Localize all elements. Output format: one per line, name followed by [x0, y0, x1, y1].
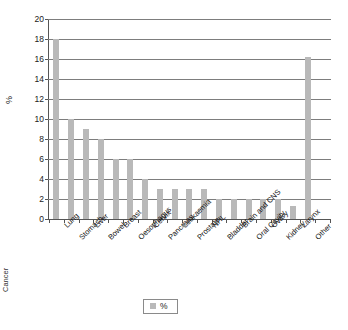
- bar-slot: [241, 19, 256, 219]
- y-tick-mark: [45, 159, 48, 160]
- bar-slot: [138, 19, 153, 219]
- y-tick-label: 16: [35, 55, 44, 64]
- y-tick-label: 10: [35, 115, 44, 124]
- chart-legend: %: [143, 299, 178, 314]
- y-tick-mark: [45, 139, 48, 140]
- bar-slot: [123, 19, 138, 219]
- bar: [53, 39, 59, 219]
- y-axis-title: %: [4, 96, 14, 104]
- bar-slot: [256, 19, 271, 219]
- x-tick-label: Other: [314, 223, 333, 242]
- x-tick-mark: [286, 219, 287, 223]
- y-tick-mark: [45, 79, 48, 80]
- y-tick-label: 14: [35, 75, 44, 84]
- y-tick-mark: [45, 219, 48, 220]
- bar-chart-figure: % Cancer 02468101214161820 LungStomachLi…: [0, 0, 348, 330]
- bar-slot: [93, 19, 108, 219]
- bar-slot: [79, 19, 94, 219]
- y-tick-mark: [45, 39, 48, 40]
- y-tick-mark: [45, 119, 48, 120]
- y-tick-label: 8: [39, 135, 44, 144]
- y-tick-mark: [45, 19, 48, 20]
- y-tick-label: 20: [35, 15, 44, 24]
- y-tick-label: 6: [39, 155, 44, 164]
- x-tick-mark: [49, 219, 50, 223]
- bar-slot: [64, 19, 79, 219]
- y-tick-label: 2: [39, 195, 44, 204]
- x-axis-title: Cancer: [1, 268, 10, 292]
- y-tick-label: 18: [35, 35, 44, 44]
- bar-slot: [108, 19, 123, 219]
- y-tick-mark: [45, 99, 48, 100]
- bar-slot: [286, 19, 301, 219]
- y-tick-mark: [45, 59, 48, 60]
- bar-slot: [182, 19, 197, 219]
- legend-swatch-icon: [150, 303, 156, 309]
- y-tick-label: 0: [39, 215, 44, 224]
- bar-slot: [49, 19, 64, 219]
- bar: [98, 139, 104, 219]
- legend-label: %: [160, 302, 168, 311]
- bar: [231, 199, 237, 219]
- x-tick-mark: [197, 219, 198, 223]
- bar: [127, 159, 133, 219]
- x-tick-mark: [330, 219, 331, 223]
- y-tick-label: 12: [35, 95, 44, 104]
- y-tick-mark: [45, 179, 48, 180]
- bar-slot: [197, 19, 212, 219]
- bar-slot: [226, 19, 241, 219]
- bar-slot: [167, 19, 182, 219]
- bar-slot: [300, 19, 315, 219]
- plot-area: 02468101214161820: [48, 19, 331, 220]
- x-axis-labels: LungStomachLiverBowelBreastOesophagusCer…: [48, 224, 348, 290]
- y-tick-label: 4: [39, 175, 44, 184]
- bar: [83, 129, 89, 219]
- bar-slot: [153, 19, 168, 219]
- bar: [290, 206, 296, 219]
- x-tick-mark: [138, 219, 139, 223]
- bar: [113, 159, 119, 219]
- bar: [305, 57, 311, 219]
- bars-group: [49, 19, 331, 219]
- y-tick-mark: [45, 199, 48, 200]
- bar-slot: [212, 19, 227, 219]
- bar: [68, 119, 74, 219]
